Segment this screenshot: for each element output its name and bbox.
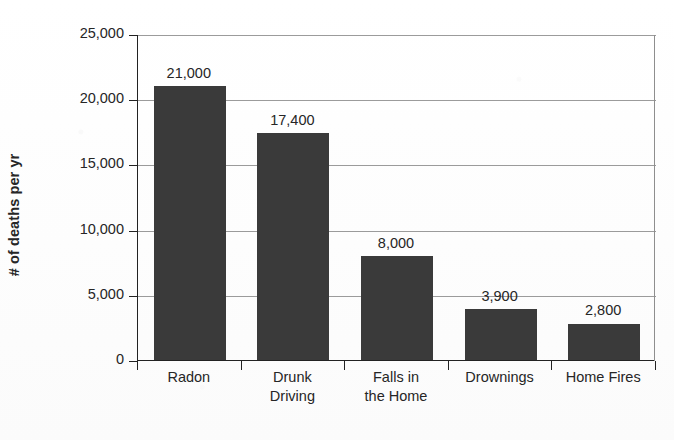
x-category-label-line: Drownings: [448, 368, 552, 387]
y-tick-label-5000: 5,000: [0, 286, 124, 302]
x-category-label-line: Home Fires: [551, 368, 655, 387]
bar-value-label-drownings: 3,900: [448, 288, 552, 304]
y-tick-label-20000: 20,000: [0, 90, 124, 106]
bar-value-label-drunk-driving: 17,400: [241, 112, 345, 128]
bar-drunk-driving: [257, 133, 329, 360]
y-tick-label-10000: 10,000: [0, 221, 124, 237]
bar-value-label-falls-in-the-home: 8,000: [344, 235, 448, 251]
x-category-label-radon: Radon: [137, 368, 241, 387]
x-tick-5: [655, 361, 656, 370]
x-category-label-line: Falls in: [344, 368, 448, 387]
x-category-label-drunk-driving: DrunkDriving: [241, 368, 345, 406]
x-category-label-line: Driving: [241, 387, 345, 406]
y-tick-label-25000: 25,000: [0, 25, 124, 41]
x-category-label-line: the Home: [344, 387, 448, 406]
bar-falls-in-the-home: [361, 256, 433, 360]
x-category-label-line: Radon: [137, 368, 241, 387]
bar-value-label-home-fires: 2,800: [551, 302, 655, 318]
bar-chart-figure: # of deaths per yr 05,00010,00015,00020,…: [0, 0, 674, 440]
x-category-label-falls-in-the-home: Falls inthe Home: [344, 368, 448, 406]
x-category-label-home-fires: Home Fires: [551, 368, 655, 387]
x-category-label-drownings: Drownings: [448, 368, 552, 387]
bar-value-label-radon: 21,000: [137, 65, 241, 81]
y-tick-label-15000: 15,000: [0, 155, 124, 171]
y-tick-label-0: 0: [0, 351, 124, 367]
bar-home-fires: [568, 324, 640, 361]
bar-drownings: [465, 309, 537, 360]
gridline-25000: [138, 35, 656, 36]
bar-radon: [154, 86, 226, 360]
x-category-label-line: Drunk: [241, 368, 345, 387]
